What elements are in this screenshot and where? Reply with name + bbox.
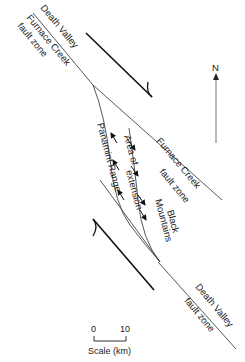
north-arrow: N	[212, 62, 219, 143]
north-label: N	[212, 62, 219, 73]
scale-caption: Scale (km)	[88, 346, 131, 356]
label-area-of: Area of	[122, 134, 141, 167]
lower-motion-arrow	[93, 219, 154, 290]
scale-end-label: 10	[120, 324, 130, 334]
scale-start-label: 0	[91, 324, 96, 334]
scale-bar: 0 10 Scale (km)	[88, 324, 131, 356]
label-extension: extension	[124, 169, 145, 211]
pull-apart-basin-diagram: Death Valley Furnace Creek fault zone Fu…	[0, 0, 245, 362]
label-panamint-range: Panamint Range	[95, 122, 124, 193]
